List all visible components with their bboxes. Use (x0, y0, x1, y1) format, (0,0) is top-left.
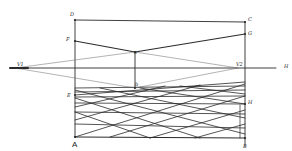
label-A: A (72, 141, 77, 149)
label-B: B (243, 144, 247, 149)
line-a-G (135, 34, 245, 52)
top-edge-DC (75, 20, 245, 22)
perspective-diagram (0, 0, 292, 151)
label-vp-right: V2 (236, 62, 243, 67)
label-G: G (248, 31, 252, 36)
label-C: C (248, 17, 252, 22)
label-F: F (66, 37, 69, 42)
label-D: D (70, 12, 74, 17)
label-horizon: H (284, 64, 288, 69)
label-a: a (134, 50, 137, 55)
label-H-right: H (248, 100, 252, 105)
ray-VR-b (135, 68, 238, 88)
label-E: E (67, 93, 71, 98)
label-vp-left: V1 (17, 62, 24, 67)
floor-grid (75, 82, 245, 138)
line-F-a (75, 41, 135, 52)
bottom-edge-AB (75, 137, 245, 138)
label-b: b (135, 82, 138, 87)
ray-VR-a (135, 52, 238, 68)
